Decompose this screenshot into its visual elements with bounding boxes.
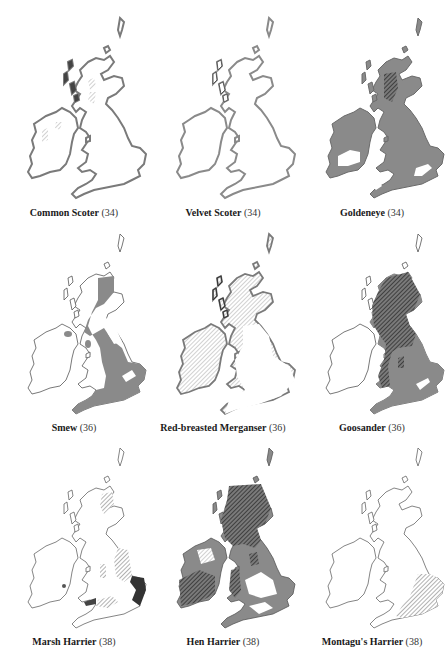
distribution-map [0, 216, 148, 421]
map-panel-red-breasted-merganser: Red-breasted Merganser (36) [149, 216, 297, 431]
distribution-map [298, 0, 446, 205]
map-caption: Montagu's Harrier (38) [298, 636, 446, 648]
distribution-map [149, 430, 297, 635]
species-map-grid: Common Scoter (34) Velvet Scoter (34) Go… [0, 0, 446, 659]
species-name: Hen Harrier [187, 636, 241, 647]
page-reference: (38) [243, 636, 260, 647]
map-panel-montagus-harrier: Montagu's Harrier (38) [298, 430, 446, 645]
distribution-map [0, 430, 148, 635]
map-panel-velvet-scoter: Velvet Scoter (34) [149, 0, 297, 215]
map-panel-common-scoter: Common Scoter (34) [0, 0, 148, 215]
page-reference: (38) [99, 636, 116, 647]
page-reference: (38) [406, 636, 423, 647]
map-panel-goosander: Goosander (36) [298, 216, 446, 431]
distribution-map [149, 0, 297, 205]
distribution-map [298, 430, 446, 635]
map-panel-goldeneye: Goldeneye (34) [298, 0, 446, 215]
map-panel-smew: Smew (36) [0, 216, 148, 431]
map-panel-marsh-harrier: Marsh Harrier (38) [0, 430, 148, 645]
map-panel-hen-harrier: Hen Harrier (38) [149, 430, 297, 645]
distribution-map [149, 216, 297, 421]
distribution-map [0, 0, 148, 205]
species-name: Marsh Harrier [32, 636, 96, 647]
species-name: Montagu's Harrier [322, 636, 403, 647]
map-caption: Hen Harrier (38) [149, 636, 297, 648]
map-caption: Marsh Harrier (38) [0, 636, 148, 648]
distribution-map [298, 216, 446, 421]
